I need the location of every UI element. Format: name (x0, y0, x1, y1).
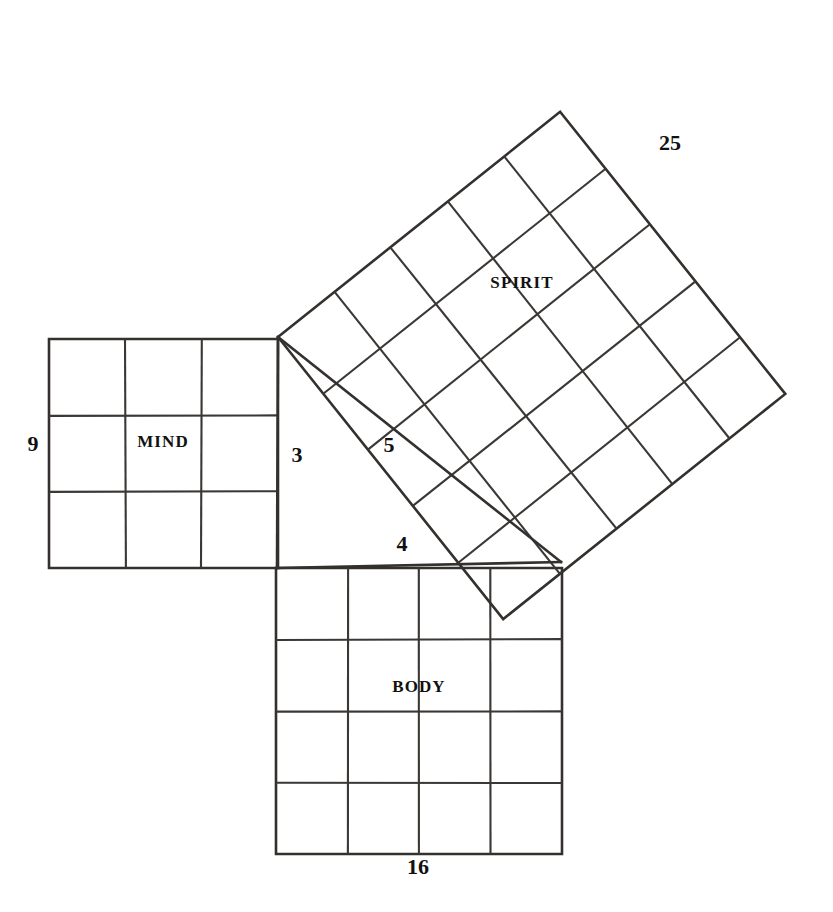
spirit-grid-line-vertical (504, 156, 729, 438)
spirit-grid-line-horizontal (368, 224, 650, 449)
spirit-name-label: SPIRIT (490, 273, 553, 292)
mind-area-label: 9 (28, 431, 39, 456)
spirit-grid-line-vertical (448, 201, 673, 484)
spirit-square-group (278, 112, 785, 619)
pythagorean-diagram: 9 3 MIND 4 16 BODY 5 25 SPIRIT (0, 0, 833, 912)
figure-canvas: 9 3 MIND 4 16 BODY 5 25 SPIRIT (0, 0, 833, 912)
mind-grid-line-horizontal (49, 491, 278, 492)
right-triangle (277, 337, 561, 568)
triangle-hypotenuse (278, 337, 561, 562)
mind-grid-line-horizontal (49, 415, 278, 416)
mind-square-outline (49, 339, 278, 568)
body-square-group (276, 568, 562, 854)
spirit-square-outline (278, 112, 785, 619)
spirit-grid-line-vertical (335, 292, 560, 574)
triangle-leg-vertical (277, 337, 278, 568)
spirit-area-label: 25 (659, 130, 681, 155)
body-area-label: 16 (407, 854, 429, 879)
spirit-grid-line-horizontal (458, 337, 740, 563)
spirit-grid-line-horizontal (413, 281, 696, 506)
mind-name-label: MIND (137, 432, 189, 451)
mind-square-group (49, 339, 278, 568)
mind-grid-line-vertical (125, 339, 126, 568)
body-name-label: BODY (392, 677, 446, 696)
spirit-side-label: 5 (384, 432, 395, 457)
mind-grid-line-vertical (201, 339, 202, 568)
body-side-label: 4 (397, 531, 408, 556)
mind-side-label: 3 (292, 442, 303, 467)
spirit-grid-line-horizontal (323, 169, 605, 394)
